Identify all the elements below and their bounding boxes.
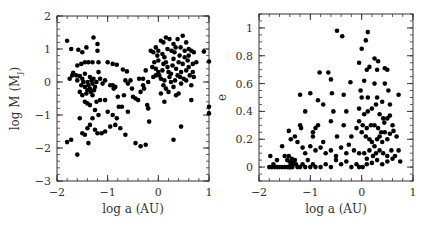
data-point <box>93 128 98 133</box>
y-axis-title: e <box>215 94 229 101</box>
y-tick-label: −1 <box>35 109 51 122</box>
data-point <box>331 109 336 114</box>
data-point <box>357 106 362 111</box>
data-point <box>207 111 212 116</box>
data-point <box>123 133 128 138</box>
data-point <box>207 59 212 64</box>
data-point <box>96 70 101 75</box>
data-point <box>275 158 280 163</box>
data-point <box>295 140 300 145</box>
data-point <box>182 48 187 53</box>
data-point <box>173 78 178 83</box>
left-scatter-panel: −2−101−3−2−1012log a (AU)log M (MJ) <box>8 10 213 216</box>
x-tick-label: 0 <box>155 186 162 199</box>
data-point <box>105 109 110 114</box>
data-point <box>177 53 182 58</box>
data-point <box>365 162 370 167</box>
y-tick-label: 0.2 <box>236 133 254 146</box>
data-point <box>357 151 362 156</box>
data-point <box>189 98 194 103</box>
data-point <box>299 126 304 131</box>
data-point <box>334 158 339 163</box>
data-point <box>78 116 83 121</box>
data-point <box>388 102 393 107</box>
data-point <box>138 90 143 95</box>
data-point <box>69 138 74 143</box>
x-axis-title: log a (AU) <box>102 202 164 216</box>
data-point <box>138 144 143 149</box>
data-point <box>376 59 381 64</box>
data-point <box>171 85 176 90</box>
data-point <box>374 102 379 107</box>
data-point <box>86 60 91 65</box>
data-point <box>383 81 388 86</box>
figure: −2−101−3−2−1012log a (AU)log M (MJ) −2−1… <box>0 0 427 225</box>
data-point <box>118 126 123 131</box>
data-point <box>372 81 377 86</box>
x-tick-label: 1 <box>410 186 417 199</box>
x-tick-label: −2 <box>251 186 267 199</box>
data-point <box>329 119 334 124</box>
x-axis-title: log a (AU) <box>305 202 367 216</box>
data-point <box>365 126 370 131</box>
data-point <box>105 60 110 65</box>
data-point <box>380 140 385 145</box>
data-point <box>290 162 295 167</box>
data-point <box>386 88 391 93</box>
data-point <box>96 60 101 65</box>
data-point <box>184 78 189 83</box>
data-point <box>174 67 179 72</box>
data-point <box>169 72 174 77</box>
data-point <box>323 151 328 156</box>
data-point <box>335 134 340 139</box>
data-point <box>287 129 292 134</box>
data-point <box>367 65 372 70</box>
data-point <box>184 68 189 73</box>
data-point <box>340 34 345 39</box>
data-point <box>88 103 93 108</box>
data-point <box>323 162 328 167</box>
data-point <box>360 123 365 128</box>
data-point <box>110 62 115 67</box>
data-point <box>191 70 196 75</box>
data-point <box>91 35 96 40</box>
data-point <box>318 165 323 170</box>
data-point <box>121 67 126 72</box>
data-point <box>146 80 151 85</box>
data-point <box>115 116 120 121</box>
data-point <box>93 108 98 113</box>
data-point <box>96 113 101 118</box>
data-point <box>192 50 197 55</box>
data-point <box>329 148 334 153</box>
data-point <box>293 134 298 139</box>
y-tick-label: 1 <box>246 22 253 35</box>
data-point <box>311 134 316 139</box>
data-point <box>103 78 108 83</box>
data-point <box>167 37 172 42</box>
data-point <box>344 151 349 156</box>
data-point <box>321 140 326 145</box>
data-point <box>159 91 164 96</box>
data-point <box>385 116 390 121</box>
data-point <box>370 161 375 166</box>
x-tick-label: −1 <box>302 186 318 199</box>
data-point <box>308 91 313 96</box>
data-point <box>370 140 375 145</box>
data-point <box>339 145 344 150</box>
data-point <box>184 40 189 45</box>
data-point <box>164 60 169 65</box>
x-tick-label: −1 <box>100 186 116 199</box>
data-point <box>358 88 363 93</box>
data-point <box>341 123 346 128</box>
data-point <box>293 158 298 163</box>
data-point <box>344 109 349 114</box>
data-point <box>364 38 369 43</box>
data-point <box>80 93 85 98</box>
data-point <box>171 57 176 62</box>
data-point <box>151 75 156 80</box>
data-point <box>80 131 85 136</box>
data-point <box>318 145 323 150</box>
data-point <box>372 123 377 128</box>
data-point <box>75 78 80 83</box>
data-point <box>76 47 81 52</box>
